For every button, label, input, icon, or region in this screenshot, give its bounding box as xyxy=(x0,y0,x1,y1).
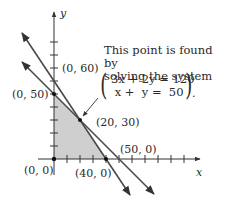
annotation-period: . xyxy=(192,88,196,99)
vertex-0-50 xyxy=(52,92,56,96)
y-axis-label: y xyxy=(60,8,66,19)
point-label-20-30: (20, 30) xyxy=(96,117,140,128)
point-label-0-0: (0, 0) xyxy=(24,165,54,176)
x-axis-label: x xyxy=(196,167,202,178)
vertex-40-0 xyxy=(104,157,108,161)
point-label-50-0: (50, 0) xyxy=(120,144,157,155)
point-label-0-60: (0, 60) xyxy=(62,63,99,74)
vertex-origin xyxy=(52,157,56,161)
equation-2: x + y = 50 xyxy=(102,86,194,99)
equation-system: 3x + 2y = 120 x + y = 50 xyxy=(102,73,194,99)
vertex-20-30 xyxy=(78,118,82,122)
annotation-line-1: This point is found by xyxy=(104,44,227,70)
point-label-40-0: (40, 0) xyxy=(75,168,112,179)
point-label-0-50: (0, 50) xyxy=(12,89,49,100)
annotation-pointer xyxy=(83,98,98,116)
